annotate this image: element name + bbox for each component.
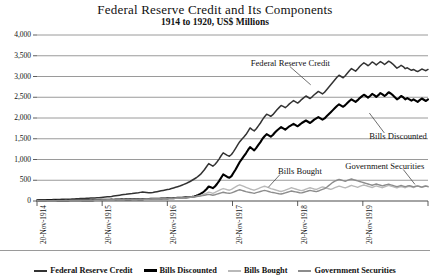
- annotation-label: Government Securities: [345, 161, 424, 171]
- annotation-label: Bills Bought: [278, 166, 322, 176]
- chart-container: Federal Reserve Credit and Its Component…: [0, 0, 430, 278]
- y-axis-tick-label: 0: [0, 197, 31, 205]
- x-axis-tick-label: 20-Nov-1914: [40, 205, 48, 244]
- legend-swatch: [228, 270, 241, 272]
- chart-legend: Federal Reserve CreditBills DiscountedBi…: [0, 266, 430, 275]
- annotation-label: Federal Reserve Credit: [251, 58, 330, 68]
- y-axis-tick-label: 3,500: [0, 52, 31, 60]
- y-axis-tick-label: 500: [0, 176, 31, 184]
- y-axis-tick-label: 1,500: [0, 135, 31, 143]
- annotation-leader-line: [403, 169, 415, 184]
- y-axis-tick-label: 2,000: [0, 114, 31, 122]
- annotation-leader-line: [290, 67, 311, 85]
- legend-item[interactable]: Government Securities: [298, 266, 395, 275]
- legend-swatch: [34, 270, 47, 272]
- legend-swatch: [298, 270, 311, 272]
- legend-item[interactable]: Bills Bought: [228, 266, 288, 275]
- x-axis-tick-label: 20-Nov-1918: [301, 205, 309, 244]
- y-axis-tick-label: 1,000: [0, 156, 31, 164]
- legend-separator: [0, 250, 430, 251]
- chart-subtitle: 1914 to 1920, US$ Millions: [0, 17, 430, 27]
- x-axis-tick-label: 20-Nov-1919: [366, 205, 374, 244]
- legend-item[interactable]: Bills Discounted: [144, 266, 217, 275]
- legend-label: Bills Bought: [244, 266, 288, 275]
- x-axis-tick-label: 20-Nov-1917: [236, 205, 244, 244]
- legend-swatch: [144, 269, 157, 272]
- x-axis-tick-label: 20-Nov-1915: [105, 205, 113, 244]
- y-axis-tick-label: 4,000: [0, 31, 31, 39]
- legend-label: Bills Discounted: [160, 266, 217, 275]
- y-axis-tick-label: 2,500: [0, 93, 31, 101]
- annotation-leader-line: [268, 174, 280, 187]
- legend-item[interactable]: Federal Reserve Credit: [34, 266, 132, 275]
- chart-title: Federal Reserve Credit and Its Component…: [0, 2, 430, 18]
- y-axis-tick-label: 3,000: [0, 73, 31, 81]
- x-axis-tick-label: 20-Nov-1916: [170, 205, 178, 244]
- legend-label: Government Securities: [314, 266, 395, 275]
- annotation-label: Bills Discounted: [369, 131, 427, 141]
- legend-label: Federal Reserve Credit: [50, 266, 132, 275]
